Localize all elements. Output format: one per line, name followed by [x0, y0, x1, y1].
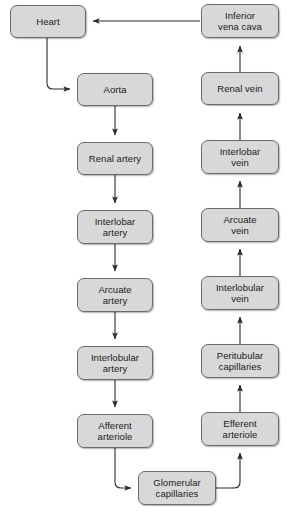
node-label: Heart — [34, 16, 61, 28]
node-arcuate-artery[interactable]: Arcuate artery — [77, 278, 153, 312]
node-label: Aorta — [102, 84, 129, 96]
node-interlobular-artery[interactable]: Interlobular artery — [77, 346, 153, 380]
node-label: Arcuate vein — [221, 214, 258, 237]
node-interlobar-vein[interactable]: Interlobar vein — [201, 140, 279, 174]
node-arcuate-vein[interactable]: Arcuate vein — [201, 208, 279, 242]
node-label: Inferior vena cava — [216, 10, 264, 33]
node-peritubular-capillaries[interactable]: Peritubular capillaries — [201, 344, 279, 378]
node-glomerular-capillaries[interactable]: Glomerular capillaries — [138, 471, 216, 505]
node-efferent-arteriole[interactable]: Efferent arteriole — [201, 412, 279, 446]
edge-heart-to-aorta — [47, 38, 70, 89]
node-label: Peritubular capillaries — [215, 350, 266, 373]
node-label: Efferent arteriole — [221, 418, 260, 441]
edge-glomerular-to-efferent-arteriole — [216, 453, 240, 488]
node-label: Renal vein — [215, 83, 264, 95]
node-label: Afferent arteriole — [96, 420, 135, 443]
node-label: Interlobar artery — [93, 216, 138, 239]
renal-circulation-flowchart: Heart Inferior vena cava Aorta Renal vei… — [0, 0, 289, 514]
node-inferior-vena-cava[interactable]: Inferior vena cava — [201, 4, 279, 38]
edge-afferent-arteriole-to-glomerular — [115, 448, 131, 488]
node-label: Interlobular vein — [214, 282, 266, 305]
node-label: Interlobar vein — [218, 146, 263, 169]
node-interlobular-vein[interactable]: Interlobular vein — [201, 276, 279, 310]
node-label: Renal artery — [87, 153, 143, 165]
node-label: Arcuate artery — [96, 284, 133, 307]
node-renal-vein[interactable]: Renal vein — [201, 72, 279, 105]
node-aorta[interactable]: Aorta — [77, 73, 153, 106]
node-renal-artery[interactable]: Renal artery — [77, 142, 153, 175]
node-heart[interactable]: Heart — [10, 5, 86, 38]
node-interlobar-artery[interactable]: Interlobar artery — [77, 210, 153, 244]
node-afferent-arteriole[interactable]: Afferent arteriole — [77, 414, 153, 448]
node-label: Glomerular capillaries — [151, 477, 203, 500]
node-label: Interlobular artery — [89, 352, 141, 375]
